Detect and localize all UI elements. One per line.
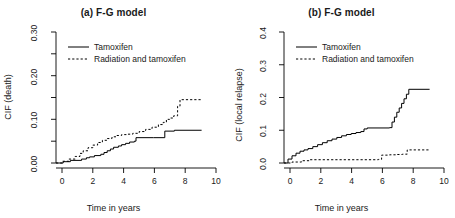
panel-a-legend-tamoxifen: Tamoxifen bbox=[94, 42, 133, 52]
panel-b-series-tamoxifen bbox=[284, 89, 430, 163]
panel-a-ytick-0: 0.00 bbox=[29, 150, 39, 178]
panel-a-ytick-6: 0.30 bbox=[29, 19, 39, 47]
panel-b-curves bbox=[284, 89, 430, 163]
panel-a-ylabel: CIF (death) bbox=[3, 67, 13, 127]
panel-a-xtick-4: 8 bbox=[175, 176, 195, 186]
panel-b-xtick-4: 8 bbox=[403, 176, 423, 186]
panel-a-xtick-5: 10 bbox=[206, 176, 226, 186]
panel-a-xtick-0: 0 bbox=[52, 176, 72, 186]
panel-b-legend-tamoxifen: Tamoxifen bbox=[322, 42, 361, 52]
panel-b-ytick-1: 0.1 bbox=[258, 118, 268, 144]
panel-b-xtick-1: 2 bbox=[311, 176, 331, 186]
panel-b-ytick-3: 0.3 bbox=[258, 53, 268, 79]
panel-a-legend-lines bbox=[68, 47, 89, 59]
panel-b-xtick-5: 10 bbox=[434, 176, 454, 186]
panel-a-xtick-2: 4 bbox=[114, 176, 134, 186]
panel-a: (a) F-G model bbox=[0, 0, 227, 218]
panel-a-xlabel: Time in years bbox=[0, 203, 227, 213]
panel-b-xtick-0: 0 bbox=[280, 176, 300, 186]
panel-b-xtick-2: 4 bbox=[342, 176, 362, 186]
panel-a-series-radiation-and-tamoxifen bbox=[56, 100, 202, 163]
panel-b-ytick-2: 0.2 bbox=[258, 86, 268, 112]
panel-b-xtick-3: 6 bbox=[372, 176, 392, 186]
panel-a-ytick-4: 0.20 bbox=[29, 63, 39, 91]
panel-b: (b) F-G model bbox=[228, 0, 455, 218]
panel-a-curves bbox=[56, 100, 202, 163]
panel-a-series-tamoxifen bbox=[56, 130, 202, 163]
panel-b-xlabel: Time in years bbox=[228, 203, 455, 213]
panel-a-legend-radiation: Radiation and tamoxifen bbox=[94, 54, 186, 64]
panel-b-series-radiation-and-tamoxifen bbox=[284, 150, 430, 163]
panel-a-xtick-3: 6 bbox=[144, 176, 164, 186]
panel-b-ylabel: CIF (local relapse) bbox=[234, 65, 244, 145]
panel-a-xtick-1: 2 bbox=[83, 176, 103, 186]
panel-b-legend-lines bbox=[296, 47, 317, 59]
panel-a-ytick-2: 0.10 bbox=[29, 106, 39, 134]
cif-figure: (a) F-G model bbox=[0, 0, 455, 218]
panel-b-legend-radiation: Radiation and tamoxifen bbox=[322, 54, 414, 64]
panel-b-ytick-0: 0.0 bbox=[258, 151, 268, 177]
panel-b-ytick-4: 0.4 bbox=[258, 20, 268, 46]
